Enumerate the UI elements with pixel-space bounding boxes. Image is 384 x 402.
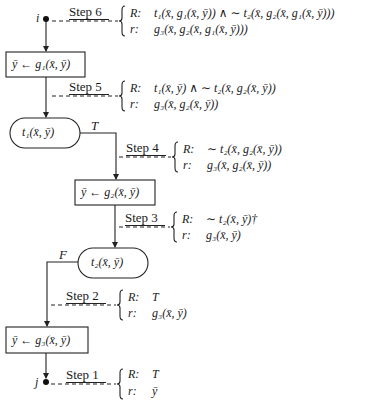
step2-R: R:T [128, 291, 159, 303]
step3-R-key: R: [182, 213, 206, 225]
step3-r-key: r: [182, 229, 206, 241]
step6-R: R:t₁(x̄, g₁(x̄, ȳ)) ∧ ∼ t₂(x̄, g₂(x̄, g₁… [130, 7, 335, 19]
step4-brace [172, 142, 178, 172]
step1-r-key: r: [128, 385, 152, 397]
step6-r-key: r: [130, 23, 154, 35]
step6-brace [119, 6, 125, 36]
end-node-dot [43, 379, 49, 385]
step3-R: R:∼ t₂(x̄, ȳ)† [182, 213, 257, 225]
step3-brace [171, 212, 177, 242]
step4-r-value: g₃(x̄, g₂(x̄, ȳ)) [207, 158, 271, 172]
step3-R-value: ∼ t₂(x̄, ȳ)† [206, 212, 257, 226]
step2-label: Step 2 [66, 289, 99, 302]
step2-brace [117, 290, 123, 320]
step4-r-key: r: [183, 159, 207, 171]
step6-label: Step 6 [69, 5, 102, 18]
step2-R-key: R: [128, 291, 152, 303]
step5-underline [69, 94, 109, 95]
step4-R-value: ∼ t₂(x̄, g₂(x̄, ȳ)) [207, 142, 282, 156]
step1-r: r:ȳ [128, 385, 157, 397]
step5-brace [119, 81, 125, 111]
edge-test1-true [80, 133, 116, 179]
step4-underline [126, 155, 166, 156]
step3-underline [125, 225, 165, 226]
step1-r-value: ȳ [152, 384, 157, 398]
step6-R-value: t₁(x̄, g₁(x̄, ȳ)) ∧ ∼ t₂(x̄, g₂(x̄, g₁(x… [154, 6, 335, 20]
step6-underline [69, 19, 109, 20]
assign2-text: ȳ ← g₂(x̄, ȳ) [81, 186, 139, 198]
step4-R-key: R: [183, 143, 207, 155]
step6-r-value: g₃(x̄, g₂(x̄, g₁(x̄, ȳ))) [154, 22, 248, 36]
step5-R-key: R: [130, 82, 154, 94]
step2-r: r:g₃(x̄, ȳ) [128, 307, 187, 319]
assign1-text: ȳ ← g₁(x̄, ȳ) [12, 58, 70, 70]
test2-false-label: F [59, 248, 67, 261]
step2-r-value: g₃(x̄, ȳ) [152, 306, 187, 320]
start-node-dot [43, 16, 49, 22]
step2-r-key: r: [128, 307, 152, 319]
step1-brace [117, 369, 123, 399]
step5-r: r:g₃(x̄, g₂(x̄, ȳ)) [130, 98, 218, 110]
step5-R-value: t₁(x̄, ȳ) ∧ ∼ t₂(x̄, g₂(x̄, ȳ)) [154, 81, 276, 95]
start-node-label: i [36, 12, 39, 24]
step3-r: r:g₃(x̄, ȳ) [182, 229, 241, 241]
step1-R-value: T [152, 367, 159, 381]
end-node-label: j [35, 376, 38, 388]
assign3-text: ȳ ← g₃(x̄, ȳ) [12, 334, 70, 346]
step1-R: R:T [128, 368, 159, 380]
step1-R-key: R: [128, 368, 152, 380]
test2-text: t₂(x̄, ȳ) [91, 256, 123, 268]
step5-r-value: g₃(x̄, g₂(x̄, ȳ)) [154, 97, 218, 111]
step6-R-key: R: [130, 7, 154, 19]
step2-R-value: T [152, 290, 159, 304]
step2-underline [66, 303, 106, 304]
step4-r: r:g₃(x̄, g₂(x̄, ȳ)) [183, 159, 271, 171]
step5-label: Step 5 [69, 80, 102, 93]
step3-label: Step 3 [125, 211, 158, 224]
step4-label: Step 4 [126, 141, 159, 154]
step1-underline [66, 382, 106, 383]
test1-text: t₁(x̄, ȳ) [22, 126, 54, 138]
step1-label: Step 1 [66, 368, 99, 381]
step4-R: R:∼ t₂(x̄, g₂(x̄, ȳ)) [183, 143, 282, 155]
step5-R: R:t₁(x̄, ȳ) ∧ ∼ t₂(x̄, g₂(x̄, ȳ)) [130, 82, 276, 94]
step6-r: r:g₃(x̄, g₂(x̄, g₁(x̄, ȳ))) [130, 23, 248, 35]
step3-r-value: g₃(x̄, ȳ) [206, 228, 241, 242]
step5-r-key: r: [130, 98, 154, 110]
test1-true-label: T [91, 119, 98, 132]
